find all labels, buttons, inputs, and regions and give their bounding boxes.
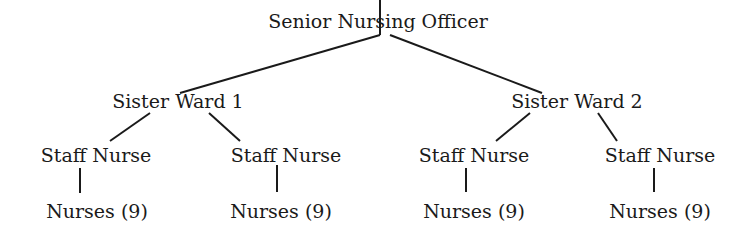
node-nurses-2: Nurses (9) xyxy=(230,202,332,221)
connector-lines xyxy=(0,0,747,233)
node-senior-nursing-officer: Senior Nursing Officer xyxy=(268,12,487,31)
node-staff-nurse-2: Staff Nurse xyxy=(231,146,341,165)
connector-ward2-staff3 xyxy=(496,113,530,141)
node-staff-nurse-3: Staff Nurse xyxy=(419,146,529,165)
node-nurses-4: Nurses (9) xyxy=(609,202,711,221)
connector-ward2-staff4 xyxy=(598,113,617,141)
node-staff-nurse-4: Staff Nurse xyxy=(605,146,715,165)
node-sister-ward-1: Sister Ward 1 xyxy=(112,92,243,111)
connector-root-ward2 xyxy=(390,35,542,93)
node-staff-nurse-1: Staff Nurse xyxy=(41,146,151,165)
node-nurses-1: Nurses (9) xyxy=(46,202,148,221)
node-sister-ward-2: Sister Ward 2 xyxy=(511,92,642,111)
connector-root-ward1 xyxy=(180,35,380,93)
connector-ward1-staff1 xyxy=(110,113,150,141)
org-chart: Senior Nursing Officer Sister Ward 1 Sis… xyxy=(0,0,747,233)
connector-ward1-staff2 xyxy=(209,113,240,141)
node-nurses-3: Nurses (9) xyxy=(423,202,525,221)
